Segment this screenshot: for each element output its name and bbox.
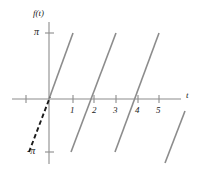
curve-segment-3 [115,33,159,152]
curve-segment-dashed [29,97,50,152]
x-tick-label-4: 4 [135,106,140,115]
y-axis-label: f(t) [33,9,44,18]
y-tick-label-minus-pi: -π [27,146,35,156]
x-axis-label: t [186,91,189,100]
x-tick-label-5: 5 [156,106,161,115]
curve-segment-2 [71,33,116,152]
x-tick-label-2: 2 [92,106,97,115]
curve-segment-4 [165,111,185,163]
x-tick-label-1: 1 [70,106,75,115]
y-tick-label-pi: π [34,27,39,37]
sawtooth-wave-figure: f(t) t π -π 1 2 3 4 5 [0,0,204,175]
curve-segment-1 [49,33,73,99]
x-tick-label-3: 3 [113,106,118,115]
